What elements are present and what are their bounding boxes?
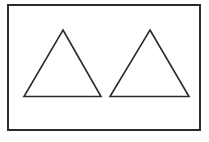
triangles-diagram [0,0,209,142]
figure-canvas [0,0,209,142]
right-triangle [110,30,189,97]
left-triangle [24,30,101,97]
